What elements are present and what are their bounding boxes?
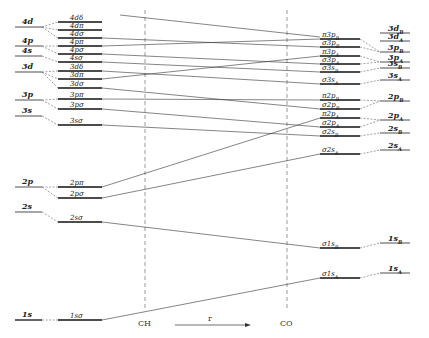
united-mo-label: 3dδ <box>70 63 83 71</box>
united-mo-label: 4pσ <box>69 46 84 54</box>
united-mo-label: 4sσ <box>69 54 83 62</box>
united-mo-label: 1sσ <box>70 312 83 320</box>
united-mo-label: 3sσ <box>70 117 83 125</box>
marker-label: CO <box>280 319 293 328</box>
marker-label: CH <box>138 319 151 328</box>
r-axis-arrow: r <box>175 314 251 327</box>
united-atom-label: 3p <box>22 89 34 99</box>
correlation-line <box>102 154 320 198</box>
united-mo-label: 3pσ <box>70 101 84 109</box>
united-atom-label: 3s <box>22 105 33 115</box>
united-atom-label: 2s <box>21 201 33 211</box>
united-mo-label: 3dπ <box>70 71 84 79</box>
united-atom-label: 4p <box>22 35 34 45</box>
united-mo-label: 2pπ <box>69 179 84 187</box>
united-atom-label: 4s <box>22 45 33 55</box>
correlation-line <box>102 71 320 84</box>
r-axis-label: r <box>208 314 212 323</box>
united-atom-label: 2p <box>21 176 34 186</box>
united-mo-label: 3dσ <box>70 80 84 88</box>
united-mo-label: 2sσ <box>69 214 83 222</box>
united-mo-label: 4dσ <box>69 30 84 38</box>
united-atom-label: 4d <box>22 16 34 26</box>
correlation-line <box>102 88 320 109</box>
united-mo-label: 3pπ <box>70 91 84 99</box>
united-mo-label: 4pπ <box>69 38 84 46</box>
correlation-line <box>102 99 320 100</box>
correlation-diagram: CHCO4d4p4s3d3p3s2p2s1s4dδ4dπ4dσ4pπ4pσ4sσ… <box>0 0 429 338</box>
united-mo-label: 2pσ <box>69 190 84 198</box>
united-mo-label: 4dδ <box>69 14 83 22</box>
united-mo-label: 4dπ <box>69 22 84 30</box>
united-atom-label: 3d <box>22 61 34 71</box>
united-atom-label: 1s <box>22 309 33 319</box>
correlation-line <box>120 15 320 37</box>
